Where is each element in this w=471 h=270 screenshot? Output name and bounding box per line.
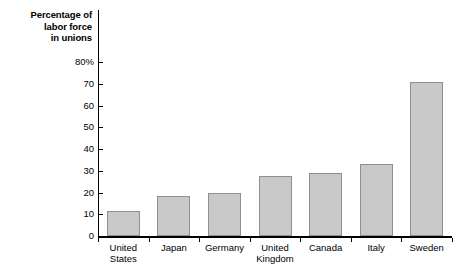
bar bbox=[360, 164, 393, 236]
y-axis-line bbox=[98, 10, 99, 236]
x-category-label: Germany bbox=[199, 243, 250, 254]
y-tick-mark bbox=[98, 236, 103, 237]
x-category-label-line: Japan bbox=[149, 243, 200, 254]
y-tick-mark bbox=[98, 84, 103, 85]
y-tick-label: 70 bbox=[83, 79, 94, 89]
bar bbox=[259, 176, 292, 236]
y-tick-label: 10 bbox=[83, 209, 94, 219]
x-category-label-line: Germany bbox=[199, 243, 250, 254]
y-tick-label: 50 bbox=[83, 122, 94, 132]
y-tick-label: 30 bbox=[83, 166, 94, 176]
y-tick-mark bbox=[98, 127, 103, 128]
x-tick-mark bbox=[452, 238, 453, 242]
x-category-label-line: United bbox=[250, 243, 301, 254]
y-axis-title-line-2: labor force bbox=[6, 21, 92, 33]
y-tick-mark bbox=[98, 214, 103, 215]
x-category-label: UnitedKingdom bbox=[250, 243, 301, 264]
bar bbox=[157, 196, 190, 236]
x-tick-mark bbox=[300, 238, 301, 242]
bar bbox=[309, 173, 342, 236]
x-tick-mark bbox=[351, 238, 352, 242]
x-category-label: Japan bbox=[149, 243, 200, 254]
x-tick-mark bbox=[401, 238, 402, 242]
y-tick-mark bbox=[98, 149, 103, 150]
y-axis-title-line-1: Percentage of bbox=[6, 9, 92, 21]
x-category-label-line: Sweden bbox=[401, 243, 452, 254]
x-axis-line bbox=[98, 236, 452, 238]
x-tick-mark bbox=[149, 238, 150, 242]
x-tick-mark bbox=[250, 238, 251, 242]
y-tick-label: 0 bbox=[89, 231, 94, 241]
y-tick-label: 60 bbox=[83, 101, 94, 111]
x-category-label-line: Canada bbox=[300, 243, 351, 254]
bar bbox=[208, 193, 241, 237]
x-tick-mark bbox=[199, 238, 200, 242]
y-axis-title-line-3: in unions bbox=[6, 32, 92, 44]
y-tick-mark bbox=[98, 171, 103, 172]
x-category-label-line: United bbox=[98, 243, 149, 254]
y-tick-label: 20 bbox=[83, 188, 94, 198]
y-tick-mark bbox=[98, 193, 103, 194]
bar bbox=[410, 82, 443, 236]
x-tick-mark bbox=[98, 238, 99, 242]
x-category-label: UnitedStates bbox=[98, 243, 149, 264]
y-tick-label: 80% bbox=[75, 57, 94, 67]
x-category-label-line: States bbox=[98, 254, 149, 265]
x-category-label-line: Kingdom bbox=[250, 254, 301, 265]
x-category-label: Sweden bbox=[401, 243, 452, 254]
bar bbox=[107, 211, 140, 236]
bar-chart-figure: Percentage of labor force in unions 0102… bbox=[0, 0, 471, 270]
x-category-label: Canada bbox=[300, 243, 351, 254]
y-tick-mark bbox=[98, 106, 103, 107]
x-category-label: Italy bbox=[351, 243, 402, 254]
y-tick-mark bbox=[98, 62, 103, 63]
y-tick-label: 40 bbox=[83, 144, 94, 154]
y-axis-title: Percentage of labor force in unions bbox=[6, 9, 92, 44]
x-category-label-line: Italy bbox=[351, 243, 402, 254]
